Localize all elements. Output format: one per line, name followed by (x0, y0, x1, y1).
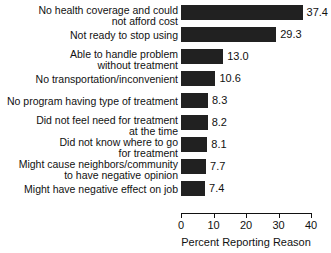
bar (181, 115, 208, 130)
x-tick-label: 0 (168, 219, 194, 231)
bar (181, 49, 223, 64)
bar (181, 93, 208, 108)
bar (181, 181, 205, 196)
bar-chart: No health coverage and could not afford … (0, 0, 331, 253)
bar (181, 137, 207, 152)
category-label: Able to handle problem without treatment (0, 49, 178, 72)
x-tick (279, 213, 280, 218)
bar-row: Did not feel need for treatment at the t… (0, 115, 331, 137)
x-tick-label: 40 (298, 219, 324, 231)
bar-value-label: 7.4 (209, 183, 224, 194)
bar (181, 71, 215, 86)
category-label: Might have negative effect on job (0, 184, 178, 195)
category-label: No program having type of treatment (0, 96, 178, 107)
x-tick (214, 213, 215, 218)
x-tick-label: 30 (266, 219, 292, 231)
bar-value-label: 8.2 (212, 117, 227, 128)
bar-row: Able to handle problem without treatment… (0, 49, 331, 71)
bar-value-label: 37.4 (307, 7, 328, 18)
bar-row: No program having type of treatment8.3 (0, 93, 331, 115)
bar-row: Might cause neighbors/community to have … (0, 159, 331, 181)
x-axis-title: Percent Reporting Reason (181, 236, 311, 248)
x-tick (311, 213, 312, 218)
bar-value-label: 8.1 (211, 139, 226, 150)
category-label: No transportation/inconvenient (0, 74, 178, 85)
category-label: Did not feel need for treatment at the t… (0, 115, 178, 138)
bar-value-label: 29.3 (280, 29, 301, 40)
bar-row: Not ready to stop using29.3 (0, 27, 331, 49)
bar (181, 5, 303, 20)
bar-value-label: 7.7 (210, 161, 225, 172)
bar-value-label: 8.3 (212, 95, 227, 106)
bar-row: Did not know where to go for treatment8.… (0, 137, 331, 159)
x-tick-label: 10 (201, 219, 227, 231)
category-label: Might cause neighbors/community to have … (0, 159, 178, 182)
x-tick-label: 20 (233, 219, 259, 231)
bar-value-label: 10.6 (219, 73, 240, 84)
bar-row: Might have negative effect on job7.4 (0, 181, 331, 203)
bar-row: No health coverage and could not afford … (0, 5, 331, 27)
bar (181, 27, 276, 42)
x-tick (181, 213, 182, 218)
category-label: Not ready to stop using (0, 30, 178, 41)
category-label: Did not know where to go for treatment (0, 137, 178, 160)
category-label: No health coverage and could not afford … (0, 5, 178, 28)
x-tick (246, 213, 247, 218)
bar-value-label: 13.0 (227, 51, 248, 62)
bar-row: No transportation/inconvenient10.6 (0, 71, 331, 93)
bar (181, 159, 206, 174)
